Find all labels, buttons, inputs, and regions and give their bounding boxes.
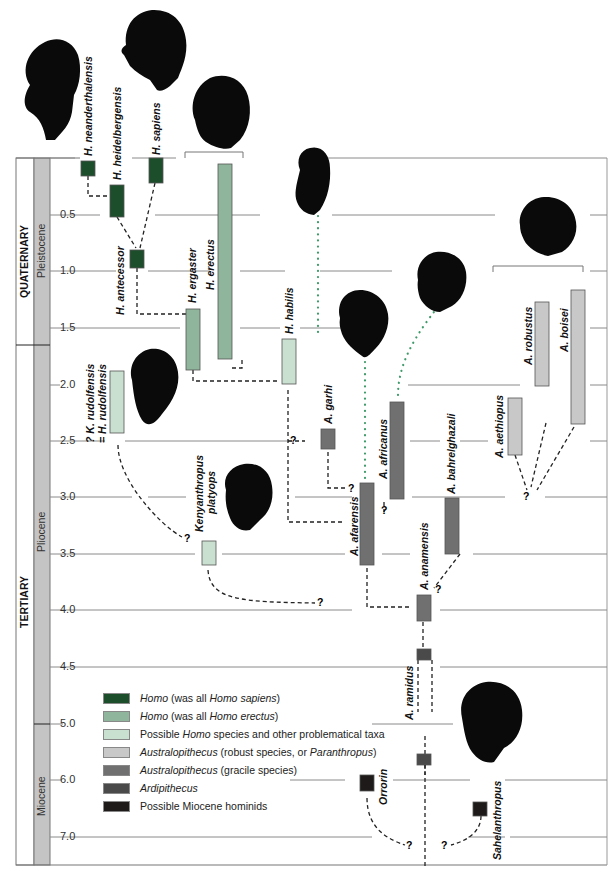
tick-6-0: 6.0 bbox=[60, 773, 75, 785]
bar-neanderthalensis bbox=[81, 161, 95, 176]
legend-swatch bbox=[103, 765, 130, 776]
legend-swatch bbox=[103, 747, 130, 758]
legend-item-miocene: Possible Miocene hominids bbox=[103, 797, 385, 815]
period-tertiary: TERTIARY bbox=[18, 576, 30, 628]
label-anamensis: A. anamensis bbox=[418, 522, 430, 590]
head-sahelanthropus-icon bbox=[461, 682, 522, 763]
legend-swatch bbox=[103, 711, 130, 722]
tick-4-5: 4.5 bbox=[60, 660, 75, 672]
uncertain-marker: ? bbox=[348, 482, 354, 494]
bar-robustus bbox=[535, 302, 549, 386]
label-kenyanthropus: Kenyanthropus bbox=[193, 455, 205, 532]
legend-item-homo-erectus: Homo (was all Homo erectus) bbox=[103, 707, 385, 725]
bar-ramidus-bottom bbox=[417, 754, 431, 765]
bar-africanus bbox=[390, 402, 404, 499]
legend-label: Australopithecus (gracile species) bbox=[140, 764, 297, 776]
legend-item-robust: Australopithecus (robust species, or Par… bbox=[103, 743, 385, 761]
label-sahelanthropus: Sahelanthropus bbox=[491, 781, 503, 860]
head-afarensis-icon bbox=[339, 290, 388, 357]
uncertain-marker: ? bbox=[290, 434, 296, 446]
tick-4-0: 4.0 bbox=[60, 603, 75, 615]
legend-item-gracile: Australopithecus (gracile species) bbox=[103, 761, 385, 779]
label-robustus: A. robustus bbox=[522, 307, 534, 365]
head-neanderthal-icon bbox=[25, 39, 80, 140]
tick-1-0: 1.0 bbox=[60, 264, 75, 276]
bar-heidelbergensis bbox=[110, 185, 124, 217]
bar-rudolfensis bbox=[110, 371, 124, 433]
tick-1-5: 1.5 bbox=[60, 321, 75, 333]
tick-3-0: 3.0 bbox=[60, 490, 75, 502]
head-habilis-icon bbox=[296, 147, 331, 215]
tick-2-5: 2.5 bbox=[60, 434, 75, 446]
tick-0-5: 0.5 bbox=[60, 208, 75, 220]
label-heidelbergensis: H. heidelbergensis bbox=[111, 87, 123, 180]
label-africanus: A. africanus bbox=[377, 419, 389, 479]
head-boisei-icon bbox=[520, 197, 577, 256]
legend-label: Homo (was all Homo erectus) bbox=[140, 710, 278, 722]
bar-habilis bbox=[282, 339, 296, 384]
uncertain-marker: ? bbox=[435, 583, 441, 595]
tick-3-5: 3.5 bbox=[60, 547, 75, 559]
legend-swatch bbox=[103, 801, 130, 812]
period-quaternary: QUATERNARY bbox=[18, 225, 30, 298]
epoch-miocene: Miocene bbox=[35, 776, 47, 816]
label-bahrelghazali: A. bahrelghazali bbox=[445, 413, 457, 494]
uncertain-marker: ? bbox=[381, 504, 387, 516]
legend-swatch bbox=[103, 693, 130, 704]
label-erectus: H. erectus bbox=[204, 239, 216, 290]
legend-item-ardipithecus: Ardipithecus bbox=[103, 779, 385, 797]
uncertain-marker: ? bbox=[441, 839, 447, 851]
bar-antecessor bbox=[130, 250, 144, 268]
bar-aethiopus bbox=[508, 398, 522, 455]
legend: Homo (was all Homo sapiens)Homo (was all… bbox=[103, 689, 385, 815]
label-platyops: platyops bbox=[205, 471, 217, 514]
epoch-pliocene: Pliocene bbox=[35, 512, 47, 552]
head-erectus-icon bbox=[193, 76, 250, 149]
uncertain-marker: ? bbox=[523, 490, 529, 502]
label-rudolfensis-1: ? K. rudolfensis bbox=[84, 364, 96, 443]
uncertain-marker: ? bbox=[184, 532, 190, 544]
bar-afarensis bbox=[360, 483, 374, 565]
bar-sahelanthropus bbox=[473, 802, 487, 816]
legend-label: Possible Homo species and other problema… bbox=[140, 728, 385, 740]
bar-ramidus-top bbox=[417, 649, 431, 660]
label-ramidus: A. ramidus bbox=[403, 666, 415, 720]
label-neanderthalensis: H. neanderthalensis bbox=[82, 56, 94, 156]
tick-2-0: 2.0 bbox=[60, 378, 75, 390]
bar-sapiens bbox=[149, 158, 163, 183]
legend-swatch bbox=[103, 783, 130, 794]
label-ergaster: H. ergaster bbox=[186, 248, 198, 303]
bar-anamensis bbox=[417, 595, 431, 621]
legend-label: Ardipithecus bbox=[140, 782, 198, 794]
uncertain-marker: ? bbox=[406, 839, 412, 851]
label-habilis: H. habilis bbox=[283, 287, 295, 334]
bar-garhi bbox=[321, 429, 335, 449]
epoch-pleistocene: Pleistocene bbox=[35, 224, 47, 278]
label-afarensis: A. afarensis bbox=[348, 496, 360, 556]
uncertain-marker: ? bbox=[317, 596, 323, 608]
legend-label: Australopithecus (robust species, or Par… bbox=[140, 746, 376, 758]
label-boisei: A. boisei bbox=[558, 308, 570, 352]
bar-kenyanthropus bbox=[202, 541, 216, 565]
bar-ergaster bbox=[186, 309, 200, 370]
label-aethiopus: A. aethiopus bbox=[493, 395, 505, 458]
hominid-phylogeny-diagram: QUATERNARY TERTIARY Pleistocene Pliocene… bbox=[0, 0, 614, 886]
legend-item-homo-sapiens: Homo (was all Homo sapiens) bbox=[103, 689, 385, 707]
head-sapiens-icon bbox=[122, 10, 187, 91]
legend-label: Possible Miocene hominids bbox=[140, 800, 267, 812]
tick-5-0: 5.0 bbox=[60, 717, 75, 729]
legend-swatch bbox=[103, 729, 130, 740]
label-garhi: A. garhi bbox=[322, 385, 334, 424]
label-sapiens: H. sapiens bbox=[150, 102, 162, 155]
legend-label: Homo (was all Homo sapiens) bbox=[140, 692, 280, 704]
label-antecessor: H. antecessor bbox=[114, 246, 126, 315]
head-africanus-icon bbox=[417, 252, 466, 312]
bar-erectus bbox=[218, 164, 232, 359]
head-platyops-icon bbox=[225, 464, 273, 531]
tick-7-0: 7.0 bbox=[60, 830, 75, 842]
label-rudolfensis-2: = H. rudolfensis bbox=[96, 364, 108, 443]
bar-bahrelghazali bbox=[445, 498, 459, 554]
bar-boisei bbox=[571, 290, 585, 424]
legend-item-possible-homo: Possible Homo species and other problema… bbox=[103, 725, 385, 743]
head-rudolfensis-icon bbox=[131, 349, 178, 425]
